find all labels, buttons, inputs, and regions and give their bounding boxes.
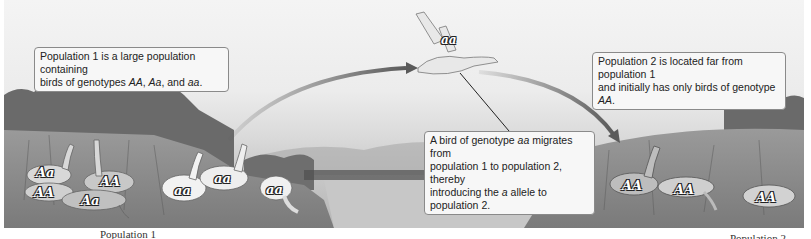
callout-text: , and <box>161 76 187 88</box>
genotype-label: AA <box>674 182 694 197</box>
migration-scene: aa Aa AA AA Aa aa aa aa AA AA AA Populat… <box>4 0 804 228</box>
callout-text: Population 1 is a large population conta… <box>40 50 195 75</box>
genotype-label: aa <box>174 183 191 198</box>
callout-text: population 1 to population 2, thereby <box>430 160 562 185</box>
callout-text: . <box>612 94 615 106</box>
callout-text: introducing the <box>430 186 502 198</box>
genotype-label: AA <box>100 174 120 189</box>
genotype-text: aa <box>188 76 200 88</box>
genotype-text: Aa <box>149 76 162 88</box>
flying-bird-aa <box>416 12 498 74</box>
genotype-label: AA <box>756 190 776 205</box>
callout-text: birds of genotypes <box>40 76 129 88</box>
callout-text: . <box>199 76 202 88</box>
genotype-text: aa <box>518 134 530 146</box>
genotype-label-flying: aa <box>441 33 457 47</box>
callout-text: and initially has only birds of genotype <box>598 81 775 93</box>
genotype-text: AA <box>129 76 143 88</box>
genotype-label: Aa <box>36 165 55 180</box>
callout-population-2: Population 2 is located far from populat… <box>592 52 786 110</box>
callout-migration: A bird of genotype aa migrates from popu… <box>424 131 595 215</box>
population-2-label: Population 2 <box>730 232 786 239</box>
genotype-label: aa <box>214 171 231 186</box>
genotype-label: aa <box>266 182 283 197</box>
population-1-label: Population 1 <box>100 228 156 239</box>
arrow-to-flying-bird <box>229 68 406 140</box>
callout-leader-line <box>460 73 509 131</box>
genotype-label: Aa <box>81 193 100 208</box>
callout-text: Population 2 is located far from populat… <box>598 55 743 80</box>
genotype-label: AA <box>34 185 54 200</box>
genotype-text: AA <box>598 94 612 106</box>
callout-population-1: Population 1 is a large population conta… <box>34 47 229 92</box>
callout-text: A bird of genotype <box>430 134 518 146</box>
genotype-label: AA <box>622 178 642 193</box>
